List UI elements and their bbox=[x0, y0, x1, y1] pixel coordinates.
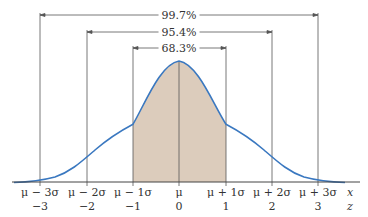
pct-99-7: 99.7% bbox=[159, 9, 200, 22]
z-tick-label: 2 bbox=[269, 200, 276, 213]
pct-95-4: 95.4% bbox=[159, 26, 200, 39]
z-tick-label: 3 bbox=[315, 200, 322, 213]
x-tick-label: μ − 3σ bbox=[21, 186, 59, 199]
x-tick-label: μ + 2σ bbox=[253, 186, 291, 199]
z-axis-label: z bbox=[347, 200, 353, 213]
x-tick-label: μ − 1σ bbox=[114, 186, 152, 199]
x-tick-label: μ + 3σ bbox=[299, 186, 337, 199]
x-tick-label: μ − 2σ bbox=[68, 186, 106, 199]
z-tick-label: 1 bbox=[223, 200, 230, 213]
x-tick-label: μ + 1σ bbox=[207, 186, 245, 199]
x-tick-label: μ bbox=[175, 186, 182, 199]
z-tick-label: −2 bbox=[79, 200, 95, 213]
z-tick-label: −3 bbox=[32, 200, 48, 213]
pct-68-3: 68.3% bbox=[159, 42, 200, 55]
z-tick-label: −1 bbox=[125, 200, 141, 213]
x-axis-label: x bbox=[347, 186, 353, 199]
z-tick-label: 0 bbox=[176, 200, 183, 213]
shaded-area bbox=[133, 61, 226, 182]
